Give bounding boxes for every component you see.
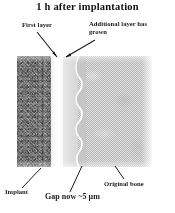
callout-label-implant: Implant xyxy=(5,188,28,196)
callout-label-additional-layer: Additional layer has grown xyxy=(89,20,169,35)
leader-line-gap xyxy=(70,166,82,192)
scalloped-interface xyxy=(74,56,86,167)
leader-line-first-layer xyxy=(37,32,57,57)
figure-container: 1 h after implantation First layer Addit… xyxy=(0,0,175,213)
callout-label-gap: Gap now ~5 µm xyxy=(45,193,100,201)
region-implant-shading xyxy=(17,56,51,167)
figure-title: 1 h after implantation xyxy=(0,1,175,13)
region-gap xyxy=(51,56,63,167)
leader-line-original-bone xyxy=(115,166,124,179)
region-original-bone-mottle xyxy=(78,56,152,167)
callout-label-original-bone: Original bone xyxy=(104,180,144,188)
leader-line-additional-layer xyxy=(66,40,95,57)
micrograph-panel xyxy=(17,56,152,167)
callout-label-first-layer: First layer xyxy=(22,21,52,29)
leader-line-implant xyxy=(22,168,41,188)
